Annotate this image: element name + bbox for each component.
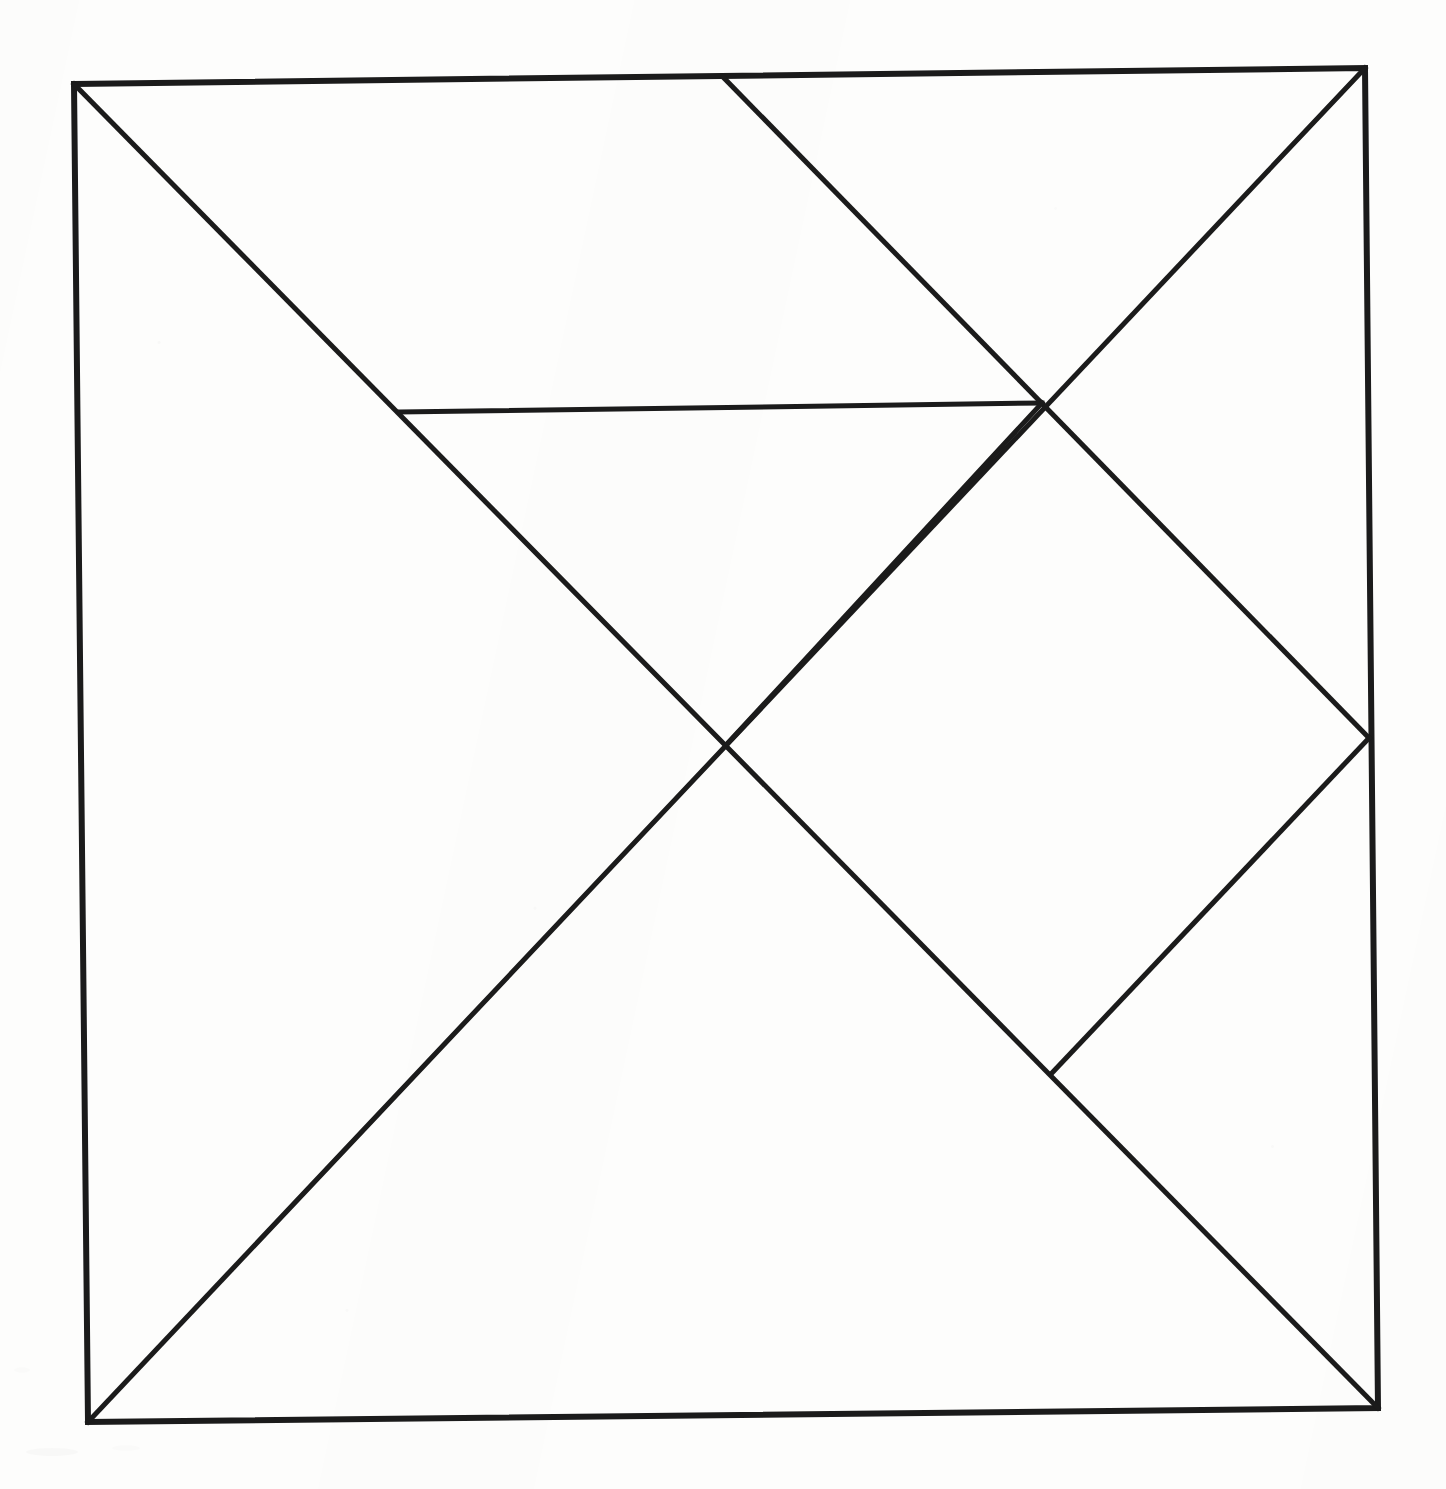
diamond-edge-right-to-bottom (1052, 738, 1369, 1073)
tangram-diagram-svg (0, 0, 1446, 1489)
tangram-figure-root (0, 0, 1446, 1489)
scan-smudges (14, 1367, 140, 1456)
diamond-edge-center-to-top (727, 403, 1042, 744)
horizontal-chord (400, 403, 1042, 412)
